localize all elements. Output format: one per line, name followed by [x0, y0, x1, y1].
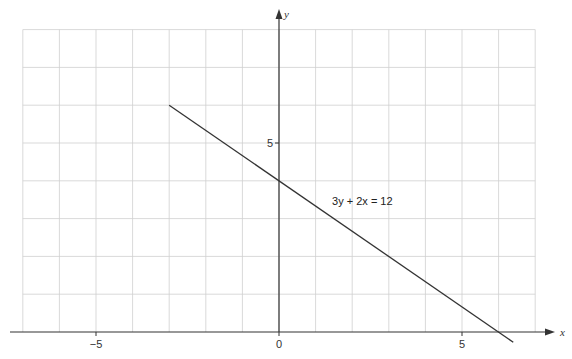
x-tick-label: 0 [276, 338, 282, 350]
coordinate-plot: x y −5055 3y + 2x = 12 [0, 0, 572, 359]
y-tick-label: 5 [267, 137, 273, 149]
y-axis-arrow-icon [276, 9, 283, 19]
axes: x y [10, 8, 565, 338]
tick-labels: −5055 [90, 137, 465, 350]
x-axis-arrow-icon [545, 329, 555, 336]
x-tick-label: −5 [90, 338, 103, 350]
y-axis-label: y [283, 8, 289, 20]
equation-label: 3y + 2x = 12 [332, 195, 393, 207]
x-axis-label: x [559, 326, 565, 338]
x-tick-label: 5 [459, 338, 465, 350]
